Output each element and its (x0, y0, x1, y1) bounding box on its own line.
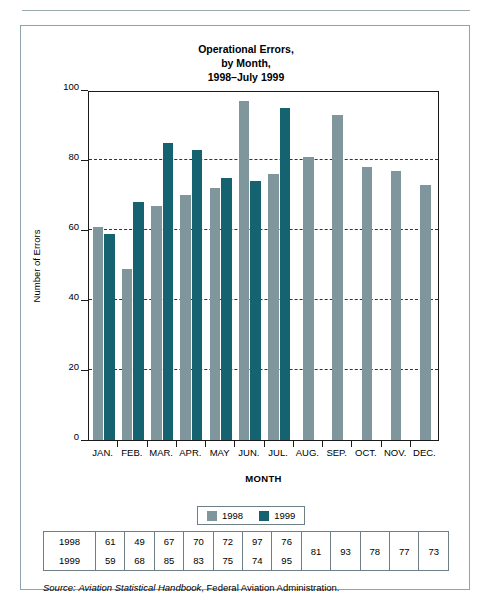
chart-title-line-1: Operational Errors, (21, 42, 471, 56)
chart-title-line-2: by Month, (21, 56, 471, 70)
gridline-80 (89, 159, 438, 160)
x-axis-label-AUG: AUG. (296, 447, 319, 458)
y-tick-label-0: 0 (74, 431, 79, 442)
bar-1999-MAR (163, 143, 174, 441)
y-tick-label-20: 20 (68, 361, 79, 372)
bar-1998-FEB (122, 269, 133, 441)
y-tick-100 (81, 90, 88, 91)
x-axis-label-DEC: DEC. (413, 447, 436, 458)
x-axis-label-MAR: MAR. (149, 447, 173, 458)
bar-1998-AUG (303, 157, 314, 441)
x-axis-label-JAN: JAN. (92, 447, 113, 458)
table-row-1998: 1998614967707297768193787773 (44, 532, 449, 552)
bar-1998-MAY (210, 188, 221, 440)
chart-title: Operational Errors, by Month, 1998–July … (21, 42, 471, 84)
table-cell-1999-MAY: 75 (213, 551, 242, 571)
bar-1998-NOV (391, 171, 402, 441)
y-tick-label-100: 100 (63, 81, 79, 92)
table-cell-1998-SEP: 93 (331, 532, 360, 571)
table-row-label-1999: 1999 (44, 551, 96, 571)
y-tick-60 (81, 230, 88, 231)
data-table: 1998614967707297768193787773199959688583… (43, 531, 449, 571)
table-cell-1998-OCT: 78 (360, 532, 389, 571)
x-tick-9 (351, 441, 352, 447)
top-rule (22, 10, 470, 11)
source-note: Source: Aviation Statistical Handbook, F… (43, 582, 453, 593)
bar-1998-MAR (151, 206, 162, 441)
legend-item-1998: 1998 (207, 510, 243, 521)
bar-1998-JAN (93, 227, 104, 441)
x-axis-label-JUL: JUL. (268, 447, 288, 458)
bar-1999-JUN (250, 181, 261, 440)
x-tick-1 (117, 441, 118, 447)
bar-1999-APR (192, 150, 203, 441)
x-tick-8 (322, 441, 323, 447)
plot-area (88, 91, 439, 441)
table-cell-1998-DEC: 73 (419, 532, 449, 571)
x-tick-6 (264, 441, 265, 447)
table-row-label-1998: 1998 (44, 532, 96, 552)
table-cell-1999-JUL: 95 (272, 551, 301, 571)
table-cell-1998-FEB: 49 (125, 532, 154, 552)
table-cell-1999-MAR: 85 (154, 551, 183, 571)
x-tick-11 (410, 441, 411, 447)
x-axis-label-OCT: OCT. (355, 447, 377, 458)
bar-1999-MAY (221, 178, 232, 441)
x-tick-10 (381, 441, 382, 447)
bar-1998-OCT (362, 167, 373, 440)
table-cell-1998-JAN: 61 (96, 532, 125, 552)
legend-swatch-1998 (207, 511, 217, 521)
figure-frame: Operational Errors, by Month, 1998–July … (20, 25, 470, 590)
y-tick-40 (81, 300, 88, 301)
x-tick-4 (205, 441, 206, 447)
x-axis-label-JUN: JUN. (238, 447, 259, 458)
x-axis-label-FEB: FEB. (121, 447, 142, 458)
y-tick-80 (81, 160, 88, 161)
legend-label-1999: 1999 (274, 510, 295, 521)
source-publication: Aviation Statistical Handbook (78, 582, 201, 593)
legend-label-1998: 1998 (222, 510, 243, 521)
table-cell-1998-MAY: 72 (213, 532, 242, 552)
bar-1999-FEB (133, 202, 144, 440)
bar-1999-JAN (104, 234, 115, 441)
legend-swatch-1999 (259, 511, 269, 521)
y-tick-label-80: 80 (68, 151, 79, 162)
source-prefix: Source: (43, 582, 76, 593)
table-cell-1998-AUG: 81 (301, 532, 330, 571)
bar-1998-SEP (332, 115, 343, 441)
source-agency: , Federal Aviation Administration. (201, 582, 339, 593)
table-cell-1998-JUL: 76 (272, 532, 301, 552)
chart-title-line-3: 1998–July 1999 (21, 70, 471, 84)
table-cell-1999-JAN: 59 (96, 551, 125, 571)
y-tick-20 (81, 370, 88, 371)
legend-item-1999: 1999 (259, 510, 295, 521)
x-tick-2 (147, 441, 148, 447)
table-cell-1998-JUN: 97 (243, 532, 272, 552)
x-axis-title: MONTH (88, 473, 439, 484)
bar-1998-JUL (268, 174, 279, 440)
table-cell-1998-MAR: 67 (154, 532, 183, 552)
x-tick-5 (234, 441, 235, 447)
figure-page: Operational Errors, by Month, 1998–July … (0, 0, 489, 608)
bar-1998-APR (180, 195, 191, 440)
x-axis-label-NOV: NOV. (384, 447, 406, 458)
x-axis-label-APR: APR. (179, 447, 201, 458)
x-tick-7 (293, 441, 294, 447)
y-axis-title: Number of Errors (31, 230, 42, 303)
bar-1999-JUL (280, 108, 291, 441)
chart-legend: 19981999 (197, 506, 305, 525)
plot-wrapper: Number of Errors 020406080100 JAN.FEB.MA… (88, 91, 439, 466)
x-tick-3 (176, 441, 177, 447)
bar-1998-DEC (420, 185, 431, 441)
table-cell-1998-APR: 70 (184, 532, 213, 552)
table-cell-1999-APR: 83 (184, 551, 213, 571)
x-axis-label-MAY: MAY (210, 447, 230, 458)
bar-1998-JUN (239, 101, 250, 441)
y-tick-0 (81, 440, 88, 441)
y-tick-label-40: 40 (68, 291, 79, 302)
table-cell-1999-JUN: 74 (243, 551, 272, 571)
x-axis-label-SEP: SEP. (326, 447, 346, 458)
table-cell-1999-FEB: 68 (125, 551, 154, 571)
y-tick-label-60: 60 (68, 221, 79, 232)
table-cell-1998-NOV: 77 (390, 532, 419, 571)
